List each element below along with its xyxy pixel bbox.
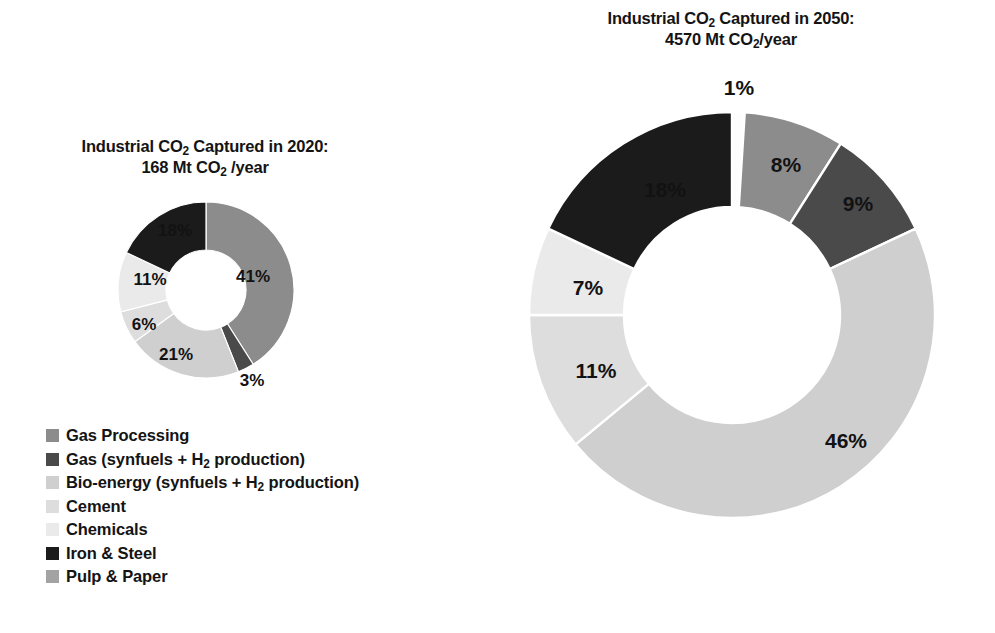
legend-item-label: Chemicals	[66, 520, 148, 539]
legend-item[interactable]: Bio-energy (synfuels + H2 production)	[46, 471, 466, 495]
legend-item-label: Pulp & Paper	[66, 567, 168, 586]
donut-chart-2020	[117, 201, 295, 379]
slice-percent-label: 1%	[724, 76, 754, 100]
h2-subscript: 2	[203, 457, 210, 471]
slice-percent-label: 7%	[573, 276, 603, 300]
chart-canvas: Industrial CO2 Captured in 2020: 168 Mt …	[0, 0, 995, 633]
slice-percent-label: 18%	[158, 221, 192, 241]
legend-item-label: Cement	[66, 497, 126, 516]
title-2020-line2: 168 Mt CO2 /year	[30, 157, 380, 178]
legend-item-label: Iron & Steel	[66, 544, 157, 563]
chart-legend: Gas ProcessingGas (synfuels + H2 product…	[46, 424, 466, 589]
legend-item[interactable]: Iron & Steel	[46, 542, 466, 566]
title-2050-line1: Industrial CO2 Captured in 2050:	[608, 9, 855, 27]
legend-swatch-icon	[46, 500, 59, 513]
co2-subscript: 2	[220, 165, 226, 179]
donut-chart-2050	[527, 110, 937, 520]
slice-percent-label: 46%	[825, 429, 867, 453]
slice-percent-label: 11%	[576, 359, 617, 383]
donut-2020-svg	[117, 201, 295, 379]
legend-swatch-icon	[46, 476, 59, 489]
title-2050-line2: 4570 Mt CO2/year	[556, 29, 906, 50]
legend-swatch-icon	[46, 523, 59, 536]
co2-subscript: 2	[183, 144, 189, 158]
co2-subscript: 2	[753, 37, 759, 51]
title-2020-line1: Industrial CO2 Captured in 2020:	[82, 137, 329, 155]
chart-title-2050: Industrial CO2 Captured in 2050: 4570 Mt…	[556, 8, 906, 50]
legend-item[interactable]: Gas (synfuels + H2 production)	[46, 448, 466, 472]
chart-title-2020: Industrial CO2 Captured in 2020: 168 Mt …	[30, 136, 380, 178]
slice-percent-label: 8%	[771, 153, 801, 177]
legend-item[interactable]: Pulp & Paper	[46, 565, 466, 589]
slice-percent-label: 6%	[132, 315, 157, 335]
slice-percent-label: 3%	[240, 371, 265, 391]
slice-percent-label: 9%	[843, 192, 873, 216]
co2-subscript: 2	[709, 16, 715, 30]
legend-swatch-icon	[46, 453, 59, 466]
slice-percent-label: 18%	[644, 178, 686, 202]
legend-item-label: Gas Processing	[66, 426, 189, 445]
legend-item-label: Gas (synfuels + H2 production)	[66, 450, 305, 469]
donut-2050-svg	[527, 110, 937, 520]
slice-percent-label: 21%	[159, 345, 193, 365]
legend-item[interactable]: Cement	[46, 495, 466, 519]
h2-subscript: 2	[258, 480, 265, 494]
legend-swatch-icon	[46, 429, 59, 442]
legend-swatch-icon	[46, 570, 59, 583]
slice-percent-label: 41%	[236, 267, 270, 287]
legend-item[interactable]: Gas Processing	[46, 424, 466, 448]
legend-item-label: Bio-energy (synfuels + H2 production)	[66, 473, 359, 492]
legend-swatch-icon	[46, 547, 59, 560]
legend-item[interactable]: Chemicals	[46, 518, 466, 542]
slice-percent-label: 11%	[133, 270, 166, 290]
